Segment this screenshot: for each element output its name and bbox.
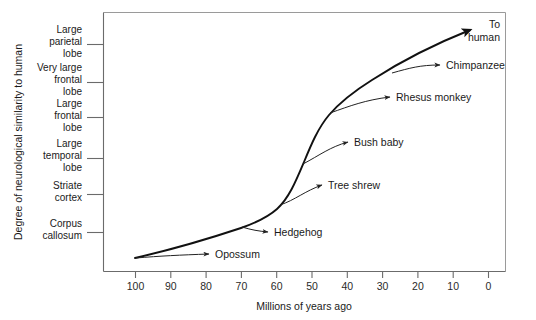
y-tick-label-5-line-0: Corpus — [50, 218, 82, 229]
x-tick-label-50: 50 — [306, 280, 318, 292]
annotation-label-tree-shrew: Tree shrew — [328, 179, 381, 191]
annotation-label-rhesus-monkey: Rhesus monkey — [396, 91, 472, 103]
annotation-label-chimpanzee: Chimpanzee — [446, 59, 505, 71]
similarity-curve — [135, 30, 470, 258]
y-axis-title: Degree of neurological similarity to hum… — [12, 44, 24, 240]
y-tick-label-0-line-2: lobe — [63, 48, 82, 59]
y-tick-label-1-line-2: lobe — [63, 86, 82, 97]
x-axis-title: Millions of years ago — [256, 300, 352, 312]
y-tick-label-0-line-0: Large — [56, 24, 82, 35]
x-axis-ticks — [136, 272, 489, 279]
annotation-labels: Opossum Hedgehog Tree shrew Bush baby Rh… — [215, 18, 505, 260]
annotation-label-to-human-line-0: To — [489, 18, 500, 30]
x-tick-label-0: 0 — [486, 280, 492, 292]
leader-bush-baby — [303, 142, 348, 164]
annotation-label-opossum: Opossum — [215, 248, 260, 260]
y-tick-label-2-line-0: Large — [56, 98, 82, 109]
x-axis-tick-labels: 100 90 80 70 60 50 40 30 20 10 0 — [127, 280, 492, 292]
y-tick-label-1-line-0: Very large — [37, 62, 82, 73]
evolution-neurological-similarity-chart: Large parietal lobe Very large frontal l… — [0, 0, 536, 320]
y-tick-label-3-line-0: Large — [56, 138, 82, 149]
x-tick-label-60: 60 — [271, 280, 283, 292]
y-tick-label-2-line-1: frontal — [54, 110, 82, 121]
x-tick-label-10: 10 — [447, 280, 459, 292]
x-tick-label-70: 70 — [236, 280, 248, 292]
y-tick-label-1-line-1: frontal — [54, 74, 82, 85]
chart-svg: Large parietal lobe Very large frontal l… — [0, 0, 536, 320]
y-tick-label-5-line-1: callosum — [43, 230, 82, 241]
x-tick-label-80: 80 — [200, 280, 212, 292]
x-tick-label-40: 40 — [341, 280, 353, 292]
x-tick-label-20: 20 — [412, 280, 424, 292]
leader-hedgehog — [242, 227, 268, 232]
y-tick-label-4-line-1: cortex — [55, 192, 82, 203]
x-tick-label-90: 90 — [165, 280, 177, 292]
annotation-label-hedgehog: Hedgehog — [274, 226, 323, 238]
leader-chimpanzee — [392, 65, 440, 73]
y-tick-label-2-line-2: lobe — [63, 122, 82, 133]
y-axis-tick-labels: Large parietal lobe Very large frontal l… — [37, 24, 82, 241]
y-tick-label-4-line-0: Striate — [53, 180, 82, 191]
y-axis-ticks — [87, 45, 104, 233]
y-tick-label-0-line-1: parietal — [49, 36, 82, 47]
y-tick-label-3-line-1: temporal — [43, 150, 82, 161]
annotation-label-to-human-line-1: human — [468, 31, 500, 43]
x-tick-label-100: 100 — [127, 280, 145, 292]
annotation-label-bush-baby: Bush baby — [354, 136, 404, 148]
y-tick-label-3-line-2: lobe — [63, 162, 82, 173]
x-tick-label-30: 30 — [377, 280, 389, 292]
leader-tree-shrew — [280, 185, 322, 205]
